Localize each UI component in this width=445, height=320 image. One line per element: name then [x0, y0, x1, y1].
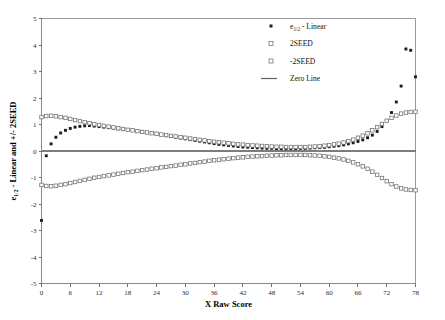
- y-tick-label: 3: [33, 68, 37, 76]
- data-point: [313, 154, 317, 158]
- data-point: [390, 182, 394, 186]
- data-point: [45, 154, 48, 157]
- legend-label: e1/2 - Linear: [290, 22, 327, 32]
- x-tick-label: 60: [326, 289, 334, 297]
- legend-marker-open-square-icon: [269, 59, 273, 63]
- data-point: [188, 137, 192, 141]
- data-point: [366, 167, 370, 171]
- data-point: [256, 155, 260, 159]
- legend-label: Zero Line: [290, 74, 321, 83]
- data-point: [188, 162, 192, 166]
- data-point: [198, 138, 202, 142]
- data-point: [313, 145, 317, 149]
- data-point: [69, 181, 73, 185]
- data-point: [270, 154, 274, 158]
- legend-item[interactable]: e1/2 - Linear: [270, 22, 327, 32]
- data-point: [169, 164, 173, 168]
- y-tick-label: -3: [31, 227, 37, 235]
- data-point: [208, 139, 212, 143]
- data-point: [289, 153, 293, 157]
- legend-label: -2SEED: [290, 57, 316, 66]
- data-point: [323, 155, 327, 159]
- x-tick-label: 78: [412, 289, 420, 297]
- legend-item[interactable]: Zero Line: [261, 74, 321, 83]
- data-point: [294, 145, 298, 149]
- x-tick-label: 12: [96, 289, 104, 297]
- data-point: [74, 126, 77, 129]
- y-tick-label: 1: [33, 121, 37, 129]
- data-point: [351, 161, 355, 165]
- data-point: [136, 129, 140, 133]
- data-point: [395, 101, 398, 104]
- data-point: [323, 144, 327, 148]
- data-point: [49, 114, 53, 118]
- data-point: [160, 166, 164, 170]
- data-point: [88, 177, 92, 181]
- data-point: [227, 157, 231, 161]
- data-point: [116, 126, 120, 129]
- data-point: [78, 179, 82, 183]
- data-point: [54, 136, 57, 139]
- data-point: [342, 158, 346, 162]
- data-point: [275, 145, 279, 149]
- data-point: [131, 129, 135, 133]
- data-point: [83, 120, 87, 124]
- legend-marker-open-square-icon: [269, 42, 273, 46]
- data-point: [83, 124, 86, 127]
- legend-item[interactable]: -2SEED: [269, 57, 316, 66]
- data-point: [54, 115, 58, 119]
- data-point: [150, 132, 154, 136]
- data-point: [299, 145, 303, 149]
- legend-item[interactable]: 2SEED: [269, 39, 313, 48]
- data-point: [371, 134, 374, 137]
- y-tick-label: 4: [33, 42, 37, 50]
- data-point: [318, 144, 322, 148]
- data-point: [361, 134, 365, 138]
- data-point: [279, 145, 283, 149]
- x-tick-label: 6: [69, 289, 73, 297]
- data-point: [222, 157, 226, 161]
- data-point: [198, 160, 202, 164]
- data-point: [327, 155, 331, 159]
- x-tick-label: 30: [182, 289, 190, 297]
- data-point: [145, 131, 149, 135]
- data-point: [347, 139, 351, 143]
- data-point: [366, 132, 370, 136]
- data-point: [50, 142, 53, 145]
- data-point: [260, 144, 264, 148]
- data-point: [212, 140, 216, 144]
- data-point: [284, 153, 288, 157]
- x-tick-label: 72: [383, 289, 391, 297]
- data-point: [208, 159, 212, 163]
- y-axis-title: e1/2 - Linear and +/- 2SEED: [8, 102, 19, 201]
- data-series-2: [40, 110, 418, 149]
- data-point: [179, 163, 183, 167]
- data-point: [399, 187, 403, 191]
- y-tick-label: -5: [31, 280, 37, 288]
- y-tick-label: -4: [31, 254, 37, 262]
- data-point: [164, 133, 168, 137]
- data-point: [203, 139, 207, 143]
- data-point: [376, 130, 379, 133]
- data-point: [236, 156, 240, 160]
- data-point: [308, 145, 312, 149]
- data-point: [399, 112, 403, 116]
- data-point: [327, 143, 331, 147]
- data-point: [390, 116, 394, 120]
- y-tick-label: 0: [33, 148, 37, 156]
- data-point: [246, 143, 250, 147]
- scatter-plot: -5-4-3-2-1012345061218243036424854606672…: [0, 0, 445, 320]
- data-point: [45, 114, 49, 118]
- data-point: [40, 219, 43, 222]
- data-point: [404, 48, 407, 51]
- x-tick-label: 66: [354, 289, 362, 297]
- data-point: [380, 122, 384, 126]
- data-point: [184, 163, 188, 167]
- data-point: [352, 141, 355, 144]
- data-point: [107, 174, 111, 178]
- data-point: [92, 176, 96, 180]
- data-point: [169, 134, 173, 138]
- data-point: [284, 145, 288, 149]
- data-point: [140, 130, 144, 134]
- data-point: [332, 156, 336, 160]
